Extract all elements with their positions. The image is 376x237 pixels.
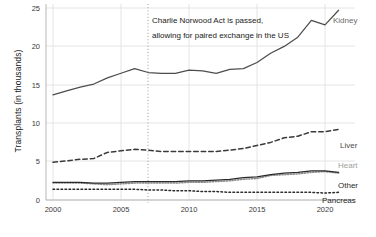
y-tick-25: 25 — [14, 4, 40, 13]
x-tick-2010: 2010 — [169, 205, 209, 214]
x-tick-2000: 2000 — [33, 205, 73, 214]
annotation-line-2: allowing for paired exchange in the US — [152, 31, 289, 40]
annotation-line-1: Charlie Norwood Act is passed, — [152, 16, 263, 25]
transplants-line-chart: Transplants (in thousands) 25 20 15 10 5… — [0, 0, 376, 237]
y-tick-15: 15 — [14, 81, 40, 90]
x-tick-2005: 2005 — [101, 205, 141, 214]
y-tick-0: 0 — [14, 196, 40, 205]
y-tick-5: 5 — [14, 157, 40, 166]
series-label-heart: Heart — [338, 161, 358, 170]
series-label-liver: Liver — [340, 141, 357, 150]
y-tick-20: 20 — [14, 42, 40, 51]
series-line-pancreas — [53, 189, 339, 193]
series-label-pancreas: Pancreas — [322, 196, 356, 205]
series-label-kidney: Kidney — [333, 16, 357, 25]
x-tick-2015: 2015 — [237, 205, 277, 214]
series-label-other: Other — [338, 181, 358, 190]
series-line-other — [53, 171, 339, 183]
x-tick-2020: 2020 — [305, 205, 345, 214]
series-line-liver — [53, 129, 339, 162]
y-tick-10: 10 — [14, 119, 40, 128]
